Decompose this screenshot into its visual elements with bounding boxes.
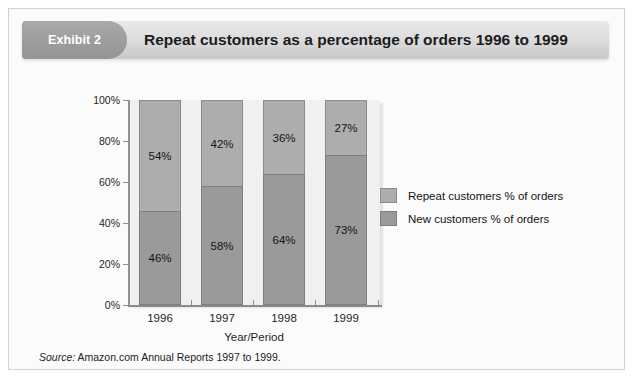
bar-column-1999[interactable]: 27% 73% bbox=[325, 100, 367, 305]
bar-segment-new-1997[interactable]: 58% bbox=[201, 186, 243, 305]
chart-area: 100% 80% 60% 40% 20% 0% 54% 46% 42% bbox=[22, 81, 609, 343]
legend-item-new[interactable]: New customers % of orders bbox=[380, 207, 605, 230]
y-axis-label-20: 20% bbox=[74, 258, 120, 270]
bar-label-new-1998: 64% bbox=[272, 234, 295, 246]
y-tick-mark-20 bbox=[123, 264, 129, 265]
x-axis-label-1997: 1997 bbox=[192, 312, 252, 324]
exhibit-header-banner: Exhibit 2 Repeat customers as a percenta… bbox=[22, 21, 609, 59]
source-label: Source: bbox=[39, 351, 75, 363]
bar-label-repeat-1997: 42% bbox=[210, 138, 233, 150]
exhibit-card: Exhibit 2 Repeat customers as a percenta… bbox=[8, 8, 625, 370]
y-tick-mark-40 bbox=[123, 223, 129, 224]
bar-segment-new-1996[interactable]: 46% bbox=[139, 211, 181, 305]
bar-label-repeat-1999: 27% bbox=[334, 122, 357, 134]
y-tick-mark-100 bbox=[123, 100, 129, 101]
source-note: Source: Amazon.com Annual Reports 1997 t… bbox=[39, 351, 281, 363]
bar-segment-repeat-1997[interactable]: 42% bbox=[201, 100, 243, 186]
y-axis-labels: 100% 80% 60% 40% 20% 0% bbox=[64, 81, 120, 343]
x-axis-label-1996: 1996 bbox=[130, 312, 190, 324]
bar-label-repeat-1996: 54% bbox=[148, 150, 171, 162]
y-axis-line bbox=[128, 100, 130, 306]
legend-swatch-new-icon bbox=[380, 211, 397, 226]
y-tick-mark-80 bbox=[123, 141, 129, 142]
x-tick-mark-0 bbox=[129, 300, 130, 306]
x-tick-mark-1 bbox=[191, 300, 192, 306]
y-axis-label-0: 0% bbox=[74, 299, 120, 311]
x-axis-title: Year/Period bbox=[128, 331, 380, 343]
y-axis-label-100: 100% bbox=[74, 94, 120, 106]
chart-legend: Repeat customers % of orders New custome… bbox=[380, 184, 605, 230]
bar-segment-repeat-1998[interactable]: 36% bbox=[263, 100, 305, 174]
x-axis-label-1999: 1999 bbox=[316, 312, 376, 324]
bar-label-new-1999: 73% bbox=[334, 224, 357, 236]
y-axis-label-80: 80% bbox=[74, 135, 120, 147]
bar-label-repeat-1998: 36% bbox=[272, 132, 295, 144]
bar-segment-new-1999[interactable]: 73% bbox=[325, 155, 367, 305]
bar-segment-new-1998[interactable]: 64% bbox=[263, 174, 305, 305]
x-tick-mark-2 bbox=[253, 300, 254, 306]
y-axis-label-40: 40% bbox=[74, 217, 120, 229]
y-axis-label-60: 60% bbox=[74, 176, 120, 188]
legend-item-repeat[interactable]: Repeat customers % of orders bbox=[380, 184, 605, 207]
exhibit-number-label: Exhibit 2 bbox=[48, 33, 101, 47]
bar-column-1996[interactable]: 54% 46% bbox=[139, 100, 181, 305]
bar-label-new-1996: 46% bbox=[148, 252, 171, 264]
exhibit-number-tag: Exhibit 2 bbox=[22, 21, 127, 59]
bar-segment-repeat-1996[interactable]: 54% bbox=[139, 100, 181, 211]
exhibit-title: Repeat customers as a percentage of orde… bbox=[144, 21, 568, 59]
x-axis-line bbox=[128, 305, 382, 307]
y-tick-mark-60 bbox=[123, 182, 129, 183]
x-tick-mark-3 bbox=[315, 300, 316, 306]
bar-column-1998[interactable]: 36% 64% bbox=[263, 100, 305, 305]
source-text: Amazon.com Annual Reports 1997 to 1999. bbox=[75, 351, 280, 363]
legend-label-new: New customers % of orders bbox=[408, 213, 549, 225]
bar-label-new-1997: 58% bbox=[210, 240, 233, 252]
bar-column-1997[interactable]: 42% 58% bbox=[201, 100, 243, 305]
legend-label-repeat: Repeat customers % of orders bbox=[408, 190, 563, 202]
x-tick-mark-4 bbox=[378, 300, 379, 306]
legend-swatch-repeat-icon bbox=[380, 188, 397, 203]
x-axis-label-1998: 1998 bbox=[254, 312, 314, 324]
bar-segment-repeat-1999[interactable]: 27% bbox=[325, 100, 367, 155]
